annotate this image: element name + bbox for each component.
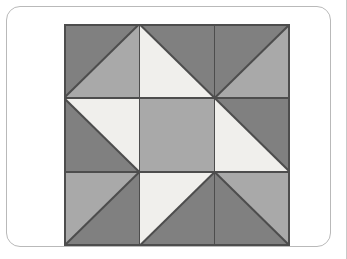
screenshot-canvas bbox=[0, 0, 347, 259]
cell-r1-c1-solid bbox=[139, 98, 214, 172]
quilt-block bbox=[64, 24, 290, 246]
quilt-block-svg bbox=[64, 24, 290, 246]
rounded-card-frame bbox=[6, 6, 331, 247]
